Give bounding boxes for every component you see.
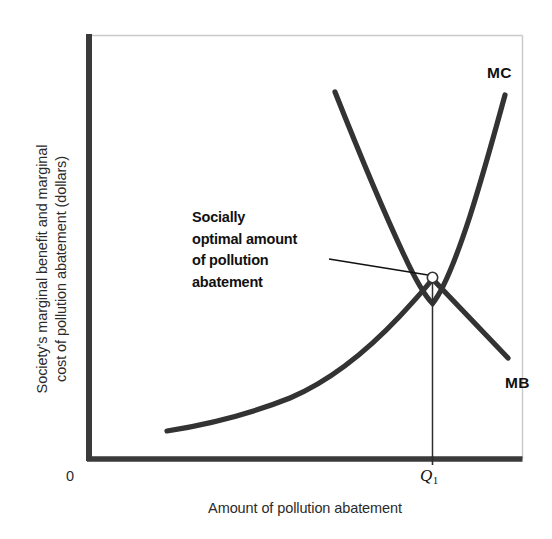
annotation-line-2: optimal amount: [192, 231, 297, 247]
x-tick-label-q1: Q1: [420, 466, 438, 486]
origin-label: 0: [66, 468, 74, 484]
q1-subscript: 1: [432, 474, 438, 486]
economics-chart-figure: Society's marginal benefit and marginalc…: [0, 0, 552, 539]
annotation-text: Sociallyoptimal amountof pollutionabatem…: [192, 207, 342, 293]
annotation-leader-line: [329, 259, 428, 275]
mc-curve: [335, 92, 505, 304]
y-axis-label-line1: Society's marginal benefit and marginal: [34, 145, 50, 394]
y-axis-label-line2: cost of pollution abatement (dollars): [53, 156, 69, 382]
annotation-line-4: abatement: [192, 274, 263, 290]
mb-curve: [167, 279, 508, 431]
x-axis-label: Amount of pollution abatement: [86, 500, 524, 516]
y-axis-label: Society's marginal benefit and marginalc…: [33, 49, 71, 489]
mb-curve-label: MB: [505, 374, 530, 392]
intersection-marker: [427, 272, 437, 282]
annotation-line-3: of pollution: [192, 252, 269, 268]
annotation-line-1: Socially: [192, 209, 245, 225]
q1-letter: Q: [420, 466, 432, 485]
mc-curve-label: MC: [487, 64, 512, 82]
